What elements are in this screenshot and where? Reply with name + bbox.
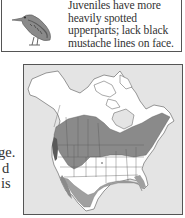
range-map <box>23 64 183 215</box>
text-fragment: d <box>2 161 15 177</box>
caption-line: Juveniles have more <box>68 0 184 13</box>
caption-line: mustache lines on face. <box>68 38 184 51</box>
north-america-map <box>24 65 182 214</box>
body-text-fragment: ge. d is <box>0 145 15 192</box>
caption-line: upperparts; lack black <box>68 25 184 38</box>
text-fragment: ge. <box>0 145 15 161</box>
map-dot <box>101 162 103 164</box>
text-fragment: is <box>1 176 15 192</box>
juvenile-heron-icon <box>10 4 56 48</box>
identification-box: Juveniles have more heavily spotted uppe… <box>1 0 182 52</box>
juvenile-caption: Juveniles have more heavily spotted uppe… <box>68 0 184 50</box>
